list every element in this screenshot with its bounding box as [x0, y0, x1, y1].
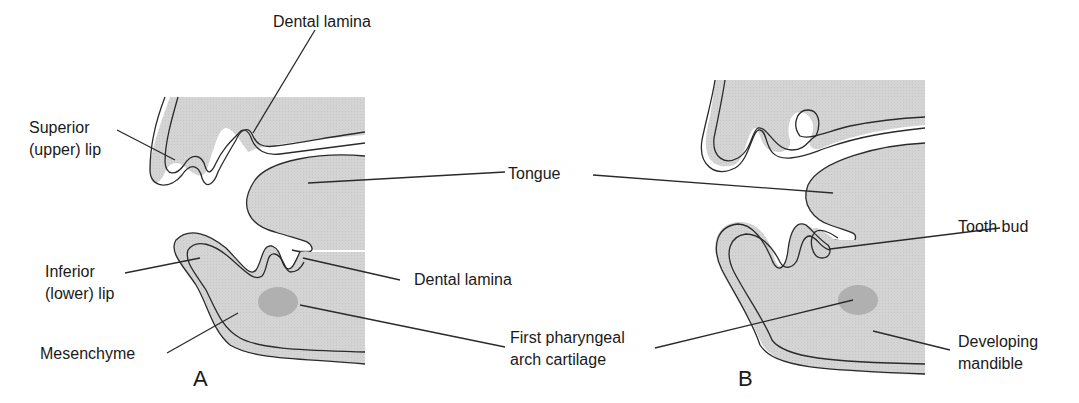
- label-inferior-lip-line2: (lower) lip: [45, 284, 114, 304]
- label-cartilage-line2: arch cartilage: [510, 350, 606, 370]
- panel-b-cartilage: [838, 285, 878, 315]
- label-dental-lamina-upper: Dental lamina: [273, 12, 371, 32]
- label-inferior-lip-line1: Inferior: [45, 262, 95, 282]
- label-developing-mandible-line2: mandible: [958, 354, 1023, 374]
- label-developing-mandible-line1: Developing: [958, 332, 1038, 352]
- label-superior-lip-line1: Superior: [29, 118, 89, 138]
- panel-letter-b: B: [738, 366, 753, 392]
- label-cartilage-line1: First pharyngeal: [510, 328, 625, 348]
- panel-letter-a: A: [193, 366, 208, 392]
- panel-a-lower-jaw: [174, 233, 365, 364]
- label-tooth-bud: Tooth bud: [958, 217, 1028, 237]
- panel-b-lower-jaw: [715, 222, 925, 375]
- panel-a-tongue: [247, 155, 365, 252]
- label-superior-lip-line2: (upper) lip: [29, 140, 101, 160]
- panel-a-cartilage: [258, 287, 298, 317]
- panel-a: [117, 30, 505, 364]
- label-tongue: Tongue: [508, 164, 561, 184]
- label-mesenchyme: Mesenchyme: [40, 344, 135, 364]
- panel-b: [593, 80, 1000, 375]
- label-dental-lamina-lower: Dental lamina: [414, 270, 512, 290]
